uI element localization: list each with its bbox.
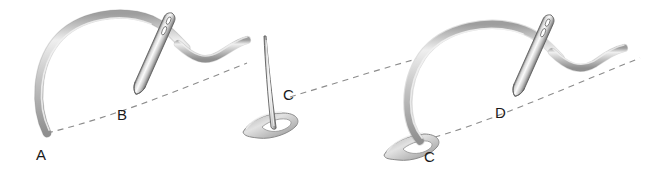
point-label-d: D [495, 104, 506, 121]
panel-step-two: C [243, 36, 298, 138]
point-label-b: B [117, 106, 127, 123]
point-label-c-middle: C [283, 86, 294, 103]
stitch-guideline-group [47, 58, 640, 140]
diagram-canvas: A B C [0, 0, 647, 174]
point-label-c-right: C [424, 148, 435, 165]
guideline-segment-middle [290, 58, 420, 97]
panel-step-three: C D [384, 13, 624, 165]
panel-step-one: A B [36, 11, 247, 163]
point-label-a: A [36, 146, 46, 163]
stitch-diagram: A B C [0, 0, 647, 174]
